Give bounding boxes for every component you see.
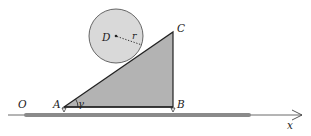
support-a-icon <box>62 108 66 112</box>
support-b-icon <box>171 108 175 112</box>
label-origin: O <box>18 98 27 110</box>
label-axis-x: x <box>287 119 293 131</box>
label-angle: γ <box>78 98 84 109</box>
diagram-canvas: O A γ B C D r x <box>0 0 311 136</box>
label-point-b: B <box>176 98 185 110</box>
label-point-c: C <box>177 22 185 34</box>
label-center-d: D <box>101 31 111 43</box>
label-point-a: A <box>52 98 61 110</box>
